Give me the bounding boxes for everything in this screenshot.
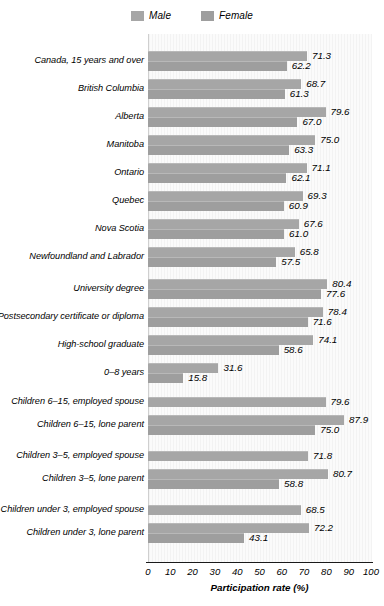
bar-value-label: 58.6 <box>284 344 303 355</box>
x-tick-label: 90 <box>343 566 354 577</box>
chart-bar-row: 58.6 <box>0 344 384 355</box>
bar-value-label: 63.3 <box>294 144 313 155</box>
bar-value-label: 57.5 <box>281 256 300 267</box>
x-tick-label: 60 <box>277 566 288 577</box>
bar-female <box>148 117 297 127</box>
bar-value-label: 67.0 <box>302 116 321 127</box>
bar-value-label: 77.6 <box>326 288 345 299</box>
chart-bar-row: 61.3 <box>0 88 384 99</box>
bar-female <box>148 201 284 211</box>
bar-female <box>148 479 279 489</box>
chart-bar-row: 61.0 <box>0 228 384 239</box>
bar-chart: Canada, 15 years and over71.362.2British… <box>0 0 384 606</box>
bar-female <box>148 289 321 299</box>
chart-bar-row: 75.0 <box>0 424 384 435</box>
x-tick-label: 80 <box>321 566 332 577</box>
chart-bar-row: 62.2 <box>0 60 384 71</box>
chart-bar-row: 43.1 <box>0 532 384 543</box>
x-tick-label: 30 <box>210 566 221 577</box>
chart-bar-row: 62.1 <box>0 172 384 183</box>
chart-bar-row: 71.8 <box>0 450 384 461</box>
chart-bar-row: 63.3 <box>0 144 384 155</box>
bar-female <box>148 425 315 435</box>
bar-female <box>148 317 308 327</box>
bar-male <box>148 451 308 461</box>
x-tick-label: 70 <box>299 566 310 577</box>
chart-bar-row: 58.8 <box>0 478 384 489</box>
x-tick-label: 40 <box>232 566 243 577</box>
bar-value-label: 71.6 <box>313 316 332 327</box>
bar-male <box>148 505 301 515</box>
x-tick-label: 50 <box>254 566 265 577</box>
bar-value-label: 58.8 <box>284 478 303 489</box>
bar-value-label: 79.6 <box>331 396 350 407</box>
bar-male <box>148 397 326 407</box>
chart-bar-row: 79.6 <box>0 396 384 407</box>
chart-bar-row: 77.6 <box>0 288 384 299</box>
bar-female <box>148 229 284 239</box>
bar-female <box>148 345 279 355</box>
bar-female <box>148 89 285 99</box>
x-tick-label: 10 <box>165 566 176 577</box>
bar-female <box>148 61 287 71</box>
bar-value-label: 75.0 <box>320 424 339 435</box>
x-tick-label: 0 <box>145 566 150 577</box>
chart-bar-row: 15.8 <box>0 372 384 383</box>
x-axis-line <box>146 562 373 563</box>
bar-female <box>148 373 183 383</box>
bar-value-label: 61.0 <box>289 228 308 239</box>
bar-value-label: 60.9 <box>289 200 308 211</box>
bar-female <box>148 257 276 267</box>
bar-value-label: 15.8 <box>188 372 207 383</box>
bar-value-label: 61.3 <box>290 88 309 99</box>
bar-value-label: 62.1 <box>291 172 310 183</box>
chart-bar-row: 57.5 <box>0 256 384 267</box>
x-tick-label: 20 <box>187 566 198 577</box>
bar-female <box>148 173 286 183</box>
bar-value-label: 43.1 <box>249 532 268 543</box>
chart-bar-row: 60.9 <box>0 200 384 211</box>
x-tick-label: 100 <box>363 566 379 577</box>
bar-value-label: 62.2 <box>292 60 311 71</box>
chart-bar-row: 67.0 <box>0 116 384 127</box>
bar-value-label: 71.8 <box>313 450 332 461</box>
bar-value-label: 68.5 <box>306 504 325 515</box>
bar-female <box>148 145 289 155</box>
chart-bar-row: 71.6 <box>0 316 384 327</box>
chart-bar-row: 68.5 <box>0 504 384 515</box>
x-axis-label: Participation rate (%) <box>148 582 371 593</box>
bar-female <box>148 533 244 543</box>
